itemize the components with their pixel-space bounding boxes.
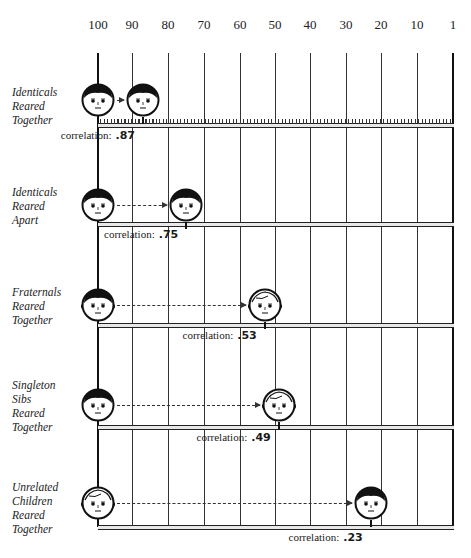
face-icon-source (81, 388, 115, 422)
face-icon-source (81, 188, 115, 222)
axis-tick-100: 100 (88, 17, 108, 33)
correlation-label: correlation: (183, 329, 234, 341)
value-marker (370, 520, 372, 527)
row-label-line: Reared (12, 99, 57, 113)
correlation-label: correlation: (197, 431, 248, 443)
row-label: FraternalsRearedTogether (12, 285, 61, 327)
row-label-line: Apart (12, 213, 57, 227)
axis-tick-60: 60 (234, 17, 247, 33)
correlation-annotation: correlation:.53 (183, 329, 257, 342)
correlation-annotation: correlation:.23 (289, 531, 363, 544)
row-label-line: Singleton (12, 378, 55, 392)
correlation-label: correlation: (289, 531, 340, 543)
correlation-value: .49 (251, 431, 271, 444)
value-marker (278, 422, 280, 429)
correlation-annotation: correlation:.87 (61, 129, 135, 142)
row-label-line: Together (12, 420, 55, 434)
correlation-annotation: correlation:.49 (197, 431, 271, 444)
dashed-arrow-icon (117, 100, 124, 101)
value-marker (142, 117, 144, 124)
row-label-line: Children (12, 494, 58, 508)
axis-tick-40: 40 (304, 17, 317, 33)
axis-tick-1: 1 (450, 17, 457, 33)
correlation-label: correlation: (104, 228, 155, 240)
face-icon-source (81, 288, 115, 322)
face-icon-target (169, 188, 203, 222)
row-label: SingletonSibsRearedTogether (12, 378, 55, 434)
correlation-value: .75 (159, 228, 179, 241)
row-baseline (98, 323, 454, 328)
row-label: IdenticalsRearedTogether (12, 85, 57, 127)
row-baseline (98, 425, 454, 430)
correlation-annotation: correlation:.75 (104, 228, 178, 241)
row-label-line: Together (12, 522, 58, 536)
row-label-line: Reared (12, 508, 58, 522)
row-baseline (98, 222, 454, 227)
row-label-line: Reared (12, 199, 57, 213)
axis-tick-30: 30 (340, 17, 353, 33)
correlation-value: .23 (343, 531, 363, 544)
axis-tick-70: 70 (198, 17, 211, 33)
row-baseline (98, 525, 454, 530)
face-icon-target (126, 83, 160, 117)
dashed-arrow-icon (117, 305, 246, 306)
face-icon-target (262, 388, 296, 422)
row-label: UnrelatedChildrenRearedTogether (12, 480, 58, 536)
dashed-arrow-icon (117, 205, 167, 206)
row-label-line: Identicals (12, 85, 57, 99)
axis-tick-90: 90 (126, 17, 139, 33)
dashed-arrow-icon (117, 405, 260, 406)
ruler-ticks (100, 119, 451, 124)
correlation-value: .87 (116, 129, 136, 142)
face-icon-source (81, 83, 115, 117)
row-label-line: Sibs (12, 392, 55, 406)
correlation-label: correlation: (61, 129, 112, 141)
axis-tick-20: 20 (375, 17, 388, 33)
face-icon-target (354, 486, 388, 520)
row-label-line: Reared (12, 299, 61, 313)
row-label-line: Identicals (12, 185, 57, 199)
dashed-arrow-icon (117, 503, 352, 504)
face-icon-target (248, 288, 282, 322)
axis-tick-80: 80 (162, 17, 175, 33)
row-label-line: Reared (12, 406, 55, 420)
row-label: IdenticalsRearedApart (12, 185, 57, 227)
row-label-line: Together (12, 113, 57, 127)
face-icon-source (81, 486, 115, 520)
value-marker (185, 222, 187, 229)
row-label-line: Together (12, 313, 61, 327)
row-label-line: Fraternals (12, 285, 61, 299)
axis-tick-50: 50 (269, 17, 282, 33)
correlation-value: .53 (237, 329, 257, 342)
axis-tick-10: 10 (411, 17, 424, 33)
row-label-line: Unrelated (12, 480, 58, 494)
value-marker (264, 322, 266, 329)
